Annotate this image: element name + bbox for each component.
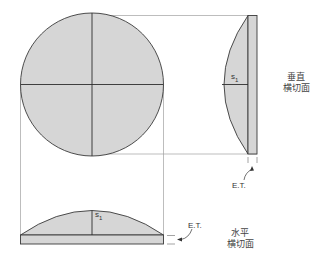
- front-view-circle: [21, 13, 164, 156]
- vertical-sag-label: s1: [231, 73, 238, 83]
- vertical-label-line2: 横切面: [278, 83, 314, 94]
- horizontal-edge-thickness-label: E.T.: [188, 222, 202, 230]
- horizontal-sag-label: s1: [95, 211, 102, 221]
- horizontal-cross-section: [21, 211, 193, 245]
- vertical-edge-thickness-label: E.T.: [232, 182, 246, 190]
- horizontal-label-line2: 横切面: [222, 239, 258, 250]
- horizontal-label-line1: 水平: [222, 228, 258, 239]
- vertical-cross-section: [222, 16, 257, 181]
- lens-diagram: [0, 0, 322, 256]
- vertical-section-label: 垂直 横切面: [278, 72, 314, 94]
- horizontal-section-label: 水平 横切面: [222, 228, 258, 250]
- vertical-label-line1: 垂直: [278, 72, 314, 83]
